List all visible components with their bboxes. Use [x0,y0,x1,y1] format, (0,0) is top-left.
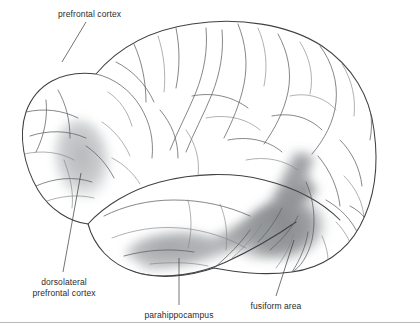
region-dorsolateral-prefrontal-cortex [47,114,116,205]
label-prefrontal-cortex: prefrontal cortex [58,9,121,20]
label-parahippocampus: parahippocampus [116,310,242,321]
label-parahippocampus-line-1: parahippocampus [116,310,242,321]
brain-diagram-figure: prefrontal cortex dorsolateral prefronta… [0,0,420,335]
leader-prefrontal-cortex [62,22,86,62]
label-fusiform-area: fusiform area [228,301,324,312]
label-fusiform-area-line-1: fusiform area [228,301,324,312]
label-dorsolateral-prefrontal-cortex: dorsolateral prefrontal cortex [18,277,110,298]
bottom-divider [0,322,420,323]
label-dorsolateral-prefrontal-cortex-line-1: dorsolateral [18,277,110,288]
label-prefrontal-cortex-line-1: prefrontal cortex [58,9,121,20]
label-dorsolateral-prefrontal-cortex-line-2: prefrontal cortex [18,288,110,299]
region-fusiform-area [234,152,331,266]
